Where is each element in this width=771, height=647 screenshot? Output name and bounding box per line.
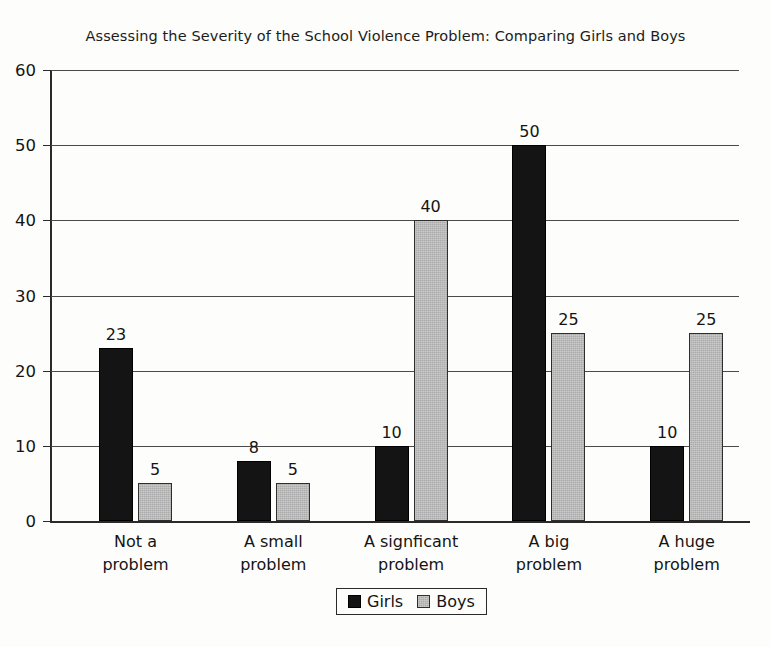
- bar-value-label-boys-4: 25: [696, 310, 716, 329]
- bar-girls-1: [237, 461, 271, 521]
- bar-boys-4: [689, 333, 723, 521]
- y-tick-30: [43, 296, 51, 297]
- bar-girls-2: [375, 446, 409, 521]
- legend-entry-girls: Girls: [348, 592, 403, 611]
- legend-swatch-boys-icon: [417, 595, 430, 608]
- bar-boys-3: [551, 333, 585, 521]
- y-tick-0: [43, 521, 51, 522]
- y-tick-50: [43, 145, 51, 146]
- legend-label-girls: Girls: [367, 592, 403, 611]
- legend-swatch-girls-icon: [348, 595, 361, 608]
- bar-girls-4: [650, 446, 684, 521]
- bar-value-label-boys-1: 5: [288, 460, 298, 479]
- x-category-label-3: A bigproblem: [516, 530, 582, 576]
- x-category-label-line: A big: [516, 530, 582, 553]
- x-category-label-line: A small: [240, 530, 306, 553]
- bar-boys-1: [276, 483, 310, 521]
- x-category-label-2: A signficantproblem: [364, 530, 458, 576]
- bar-value-label-girls-2: 10: [381, 423, 401, 442]
- x-category-label-0: Not aproblem: [102, 530, 168, 576]
- gridline-0: [50, 521, 750, 523]
- bar-value-label-girls-3: 50: [519, 122, 539, 141]
- legend-label-boys: Boys: [436, 592, 475, 611]
- y-tick-20: [43, 371, 51, 372]
- y-tick-label-30: 30: [0, 286, 36, 305]
- bar-boys-2: [414, 220, 448, 521]
- y-tick-label-60: 60: [0, 61, 36, 80]
- bar-girls-0: [99, 348, 133, 521]
- x-category-label-line: problem: [102, 553, 168, 576]
- bar-value-label-girls-1: 8: [249, 438, 259, 457]
- bar-boys-0: [138, 483, 172, 521]
- x-category-label-line: problem: [240, 553, 306, 576]
- gridline-20: [50, 371, 739, 372]
- x-category-label-line: problem: [654, 553, 720, 576]
- y-tick-60: [43, 70, 51, 71]
- x-category-label-1: A smallproblem: [240, 530, 306, 576]
- plot-area: 23810501055402525: [50, 70, 739, 521]
- gridline-60: [50, 70, 739, 71]
- legend-entry-boys: Boys: [417, 592, 475, 611]
- bar-value-label-boys-0: 5: [150, 460, 160, 479]
- y-tick-label-40: 40: [0, 211, 36, 230]
- x-category-label-line: problem: [516, 553, 582, 576]
- gridline-50: [50, 145, 739, 146]
- chart-title: Assessing the Severity of the School Vio…: [0, 28, 771, 44]
- y-tick-10: [43, 446, 51, 447]
- y-tick-label-50: 50: [0, 136, 36, 155]
- chart-legend: Girls Boys: [336, 588, 487, 615]
- bar-value-label-boys-3: 25: [558, 310, 578, 329]
- x-category-label-line: Not a: [102, 530, 168, 553]
- gridline-40: [50, 220, 739, 221]
- y-axis-tick-labels: 0102030405060: [0, 0, 36, 647]
- x-category-label-line: A huge: [654, 530, 720, 553]
- y-tick-40: [43, 220, 51, 221]
- y-tick-label-10: 10: [0, 436, 36, 455]
- x-category-label-line: A signficant: [364, 530, 458, 553]
- x-category-label-line: problem: [364, 553, 458, 576]
- x-category-label-4: A hugeproblem: [654, 530, 720, 576]
- bar-value-label-girls-0: 23: [106, 325, 126, 344]
- y-tick-label-20: 20: [0, 361, 36, 380]
- bar-value-label-girls-4: 10: [657, 423, 677, 442]
- gridline-30: [50, 296, 739, 297]
- y-tick-label-0: 0: [0, 512, 36, 531]
- bar-girls-3: [512, 145, 546, 521]
- bar-value-label-boys-2: 40: [420, 197, 440, 216]
